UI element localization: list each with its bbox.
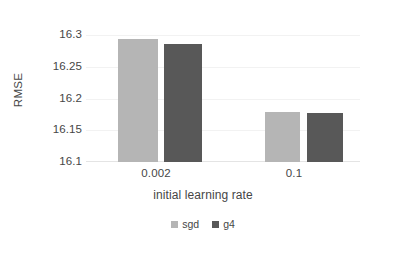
plot-area [86, 35, 360, 162]
x-axis-title: initial learning rate [0, 188, 406, 202]
chart-legend: sgdg4 [0, 219, 406, 230]
legend-item-g4[interactable]: g4 [212, 219, 235, 230]
y-tick-label: 16.15 [12, 124, 82, 135]
bar-sgd-0.1 [265, 112, 300, 162]
x-tick-label: 0.002 [96, 167, 216, 179]
y-tick-label: 16.2 [12, 93, 82, 104]
bar-sgd-0.002 [118, 39, 158, 162]
gridline [86, 35, 360, 36]
bar-g4-0.002 [164, 44, 202, 162]
legend-swatch-icon [171, 221, 178, 228]
bar-g4-0.1 [307, 113, 343, 162]
bar-chart: RMSE 16.316.2516.216.1516.1 0.0020.1 ini… [0, 0, 406, 267]
y-tick-label: 16.1 [12, 156, 82, 167]
legend-swatch-icon [212, 221, 219, 228]
legend-label: g4 [223, 219, 235, 230]
y-tick-label: 16.25 [12, 61, 82, 72]
x-tick-label: 0.1 [234, 167, 354, 179]
legend-label: sgd [182, 219, 199, 230]
legend-item-sgd[interactable]: sgd [171, 219, 199, 230]
y-tick-label: 16.3 [12, 29, 82, 40]
